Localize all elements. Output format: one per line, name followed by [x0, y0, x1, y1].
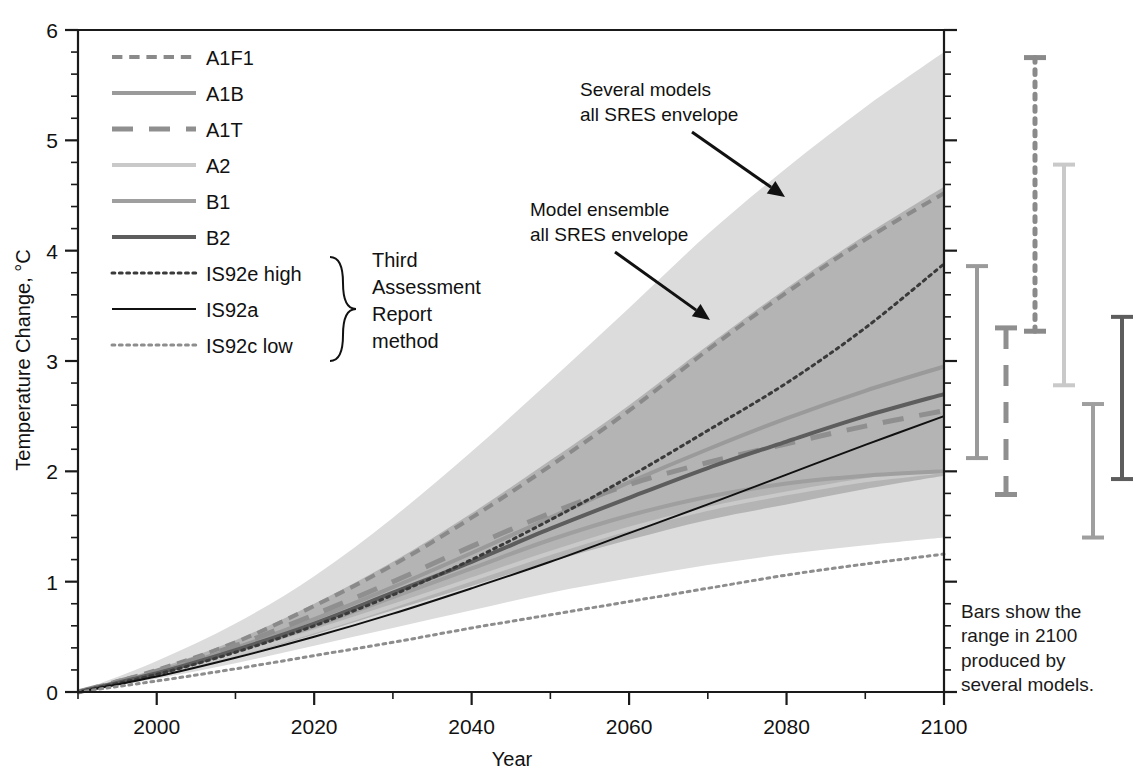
- several-models-annotation: Several modelsall SRES envelope: [580, 79, 785, 197]
- y-tick-label: 4: [46, 240, 58, 263]
- legend-brace: [330, 257, 356, 361]
- x-tick-label: 2080: [763, 715, 810, 738]
- legend-label: A1F1: [206, 47, 254, 69]
- legend-label: A2: [206, 155, 230, 177]
- legend-item-b1: B1: [112, 191, 230, 213]
- x-tick-label: 2000: [133, 715, 180, 738]
- legend-item-b2: B2: [112, 227, 230, 249]
- annotation-line: all SRES envelope: [530, 224, 688, 245]
- legend-label: IS92c low: [206, 335, 293, 357]
- legend-label: IS92e high: [206, 263, 302, 285]
- annotation-line: Model ensemble: [530, 199, 669, 220]
- legend-brace-note-line: method: [372, 330, 439, 352]
- x-tick-label: 2060: [606, 715, 653, 738]
- legend-brace-note-line: Third: [372, 249, 418, 271]
- x-tick-label: 2040: [448, 715, 495, 738]
- legend-item-is92c-low: IS92c low: [112, 335, 293, 357]
- climate-projection-figure: 0123456200020202040206020802100 A1F1A1BA…: [0, 0, 1147, 784]
- legend-brace-note-line: Report: [372, 303, 432, 325]
- y-tick-label: 6: [46, 19, 58, 42]
- legend-layer: A1F1A1BA1TA2B1B2IS92e highIS92aIS92c low…: [112, 47, 481, 361]
- legend-label: IS92a: [206, 299, 259, 321]
- range-bar-b2: [1111, 317, 1133, 479]
- range-bars-caption: Bars show therange in 2100produced bysev…: [961, 600, 1141, 697]
- x-tick-label: 2020: [291, 715, 338, 738]
- legend-label: A1T: [206, 119, 243, 141]
- legend-item-a1b: A1B: [112, 83, 244, 105]
- legend-label: B2: [206, 227, 230, 249]
- legend-item-a1t: A1T: [112, 119, 243, 141]
- legend-label: B1: [206, 191, 230, 213]
- y-tick-label: 3: [46, 350, 58, 373]
- range-bar-a2: [1053, 165, 1075, 386]
- annotation-line: all SRES envelope: [580, 104, 738, 125]
- y-tick-label: 1: [46, 571, 58, 594]
- legend-item-is92e-high: IS92e high: [112, 263, 302, 285]
- y-tick-label: 5: [46, 129, 58, 152]
- legend-item-a1f1: A1F1: [112, 47, 254, 69]
- legend-item-a2: A2: [112, 155, 230, 177]
- legend-brace-note-line: Assessment: [372, 276, 481, 298]
- y-tick-label: 0: [46, 681, 58, 704]
- legend-label: A1B: [206, 83, 244, 105]
- annotation-line: Several models: [580, 79, 711, 100]
- y-axis-title: Temperature Change, °C: [12, 249, 34, 470]
- range-bar-a1f1: [1024, 58, 1046, 332]
- caption-line: several models.: [961, 673, 1141, 697]
- range-bars-layer: [966, 58, 1133, 538]
- y-tick-label: 2: [46, 460, 58, 483]
- band-layer: [78, 52, 944, 692]
- range-bar-a1b: [966, 266, 988, 458]
- caption-line: Bars show the: [961, 600, 1141, 624]
- x-axis-title: Year: [492, 748, 533, 770]
- annotation-arrow-shaft: [692, 132, 771, 187]
- caption-line: produced by: [961, 649, 1141, 673]
- range-bar-b1: [1082, 404, 1104, 538]
- legend-item-is92a: IS92a: [112, 299, 259, 321]
- range-bar-a1t: [995, 328, 1017, 495]
- x-tick-label: 2100: [921, 715, 968, 738]
- caption-line: range in 2100: [961, 624, 1141, 648]
